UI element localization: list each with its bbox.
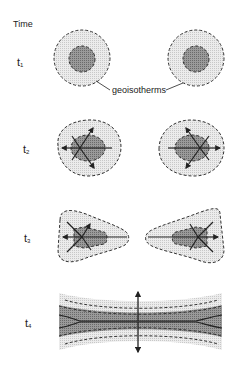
inner-body-right xyxy=(183,46,209,72)
stage-label-t2-sub: 2 xyxy=(26,149,29,155)
time-axis-label: Time xyxy=(13,20,33,29)
leader-line-left xyxy=(96,81,110,90)
stage-label-t1: t1 xyxy=(17,57,23,68)
stage-label-t1-sub: 1 xyxy=(20,62,23,68)
geoisotherms-label: geoisotherms xyxy=(112,86,166,95)
stage-label-t3-sub: 3 xyxy=(27,238,30,244)
stage-t4 xyxy=(59,292,222,352)
leader-line-right xyxy=(166,83,183,90)
stage-label-t3: t3 xyxy=(24,233,30,244)
stage-label-t4-sub: 4 xyxy=(28,323,31,329)
stage-label-t4: t4 xyxy=(25,318,31,329)
stage-t1 xyxy=(54,30,224,90)
stage-label-t2: t2 xyxy=(23,144,29,155)
diagram-canvas xyxy=(0,0,237,366)
stage-t2 xyxy=(58,120,224,176)
inner-body-left xyxy=(69,46,95,72)
stage-t3 xyxy=(58,209,224,263)
